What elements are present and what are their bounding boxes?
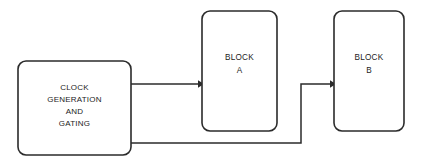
block-label: GENERATION (47, 95, 101, 104)
diagram-canvas: CLOCK GENERATION AND GATING BLOCK A BLOC… (0, 0, 422, 167)
block-b[interactable]: BLOCK B (334, 11, 404, 131)
connector-clock-to-block-a (131, 80, 204, 88)
block-label: B (366, 66, 372, 75)
block-label: CLOCK (60, 83, 89, 92)
block-label: BLOCK (354, 53, 383, 62)
block-a[interactable]: BLOCK A (202, 11, 277, 131)
block-diagram: CLOCK GENERATION AND GATING BLOCK A BLOC… (0, 0, 422, 167)
block-clock-generation-and-gating[interactable]: CLOCK GENERATION AND GATING (18, 61, 131, 155)
block-label: AND (66, 107, 84, 116)
block-label: GATING (59, 119, 90, 128)
block-label: BLOCK (225, 53, 254, 62)
block-label: A (237, 66, 243, 75)
